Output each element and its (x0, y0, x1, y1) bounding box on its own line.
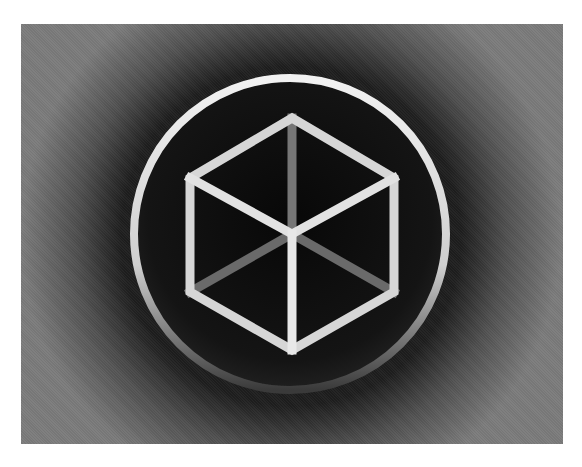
cube-logo (0, 0, 582, 467)
